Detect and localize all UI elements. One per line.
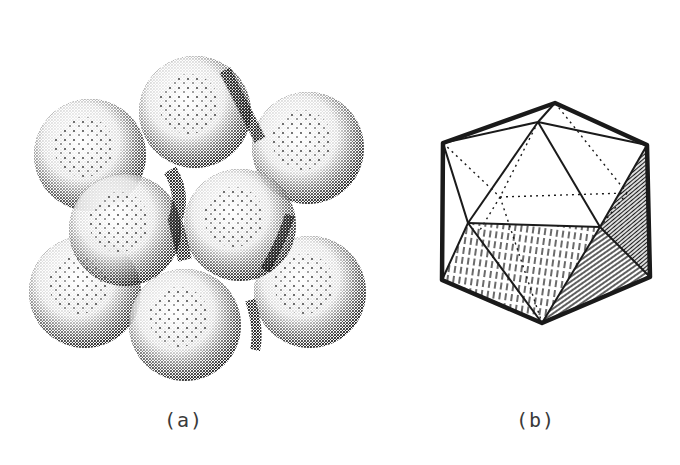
panel-label-b: (b) bbox=[516, 408, 555, 432]
sphere bbox=[129, 269, 241, 381]
icosahedron-drawing bbox=[430, 90, 670, 340]
sphere bbox=[69, 174, 181, 286]
panel-label-a: (a) bbox=[164, 408, 203, 432]
sphere-cluster-drawing bbox=[20, 30, 380, 390]
sphere bbox=[139, 56, 251, 168]
sphere bbox=[184, 169, 296, 281]
